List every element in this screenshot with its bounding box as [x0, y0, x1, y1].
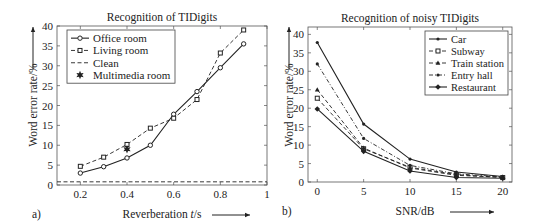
- y-tick-label: 10: [42, 139, 54, 151]
- x-axis-arrow: [450, 210, 494, 214]
- data-point-marker: [316, 62, 319, 65]
- legend-marker-icon: [78, 36, 82, 40]
- data-point-marker: [148, 143, 152, 147]
- y-tick-label: 5: [299, 158, 305, 170]
- legend-label: Living room: [93, 44, 149, 56]
- panel-label: a): [32, 208, 41, 221]
- data-point-marker: [362, 137, 365, 140]
- y-axis-label: Word error rate/%: [283, 63, 295, 147]
- legend-marker-icon: [78, 48, 82, 52]
- data-point-marker: [125, 156, 129, 160]
- legend-label: Clean: [93, 57, 119, 69]
- data-point-marker: [101, 165, 105, 169]
- x-axis-arrow: [212, 213, 250, 217]
- legend-marker-icon: [436, 49, 440, 53]
- y-tick-label: 40: [293, 28, 305, 40]
- y-tick-label: 15: [42, 119, 54, 131]
- y-tick-label: 35: [293, 47, 305, 59]
- chart-panel-b: Recognition of noisy TIDigits05101520051…: [282, 12, 512, 218]
- data-point-marker: [148, 126, 152, 130]
- data-point-marker: [195, 89, 199, 93]
- data-point-marker: [78, 171, 82, 175]
- data-point-marker: [408, 164, 411, 167]
- y-tick-label: 0: [299, 176, 305, 188]
- data-point-marker: [315, 96, 319, 100]
- x-tick-label: 0.2: [73, 188, 87, 200]
- chart-title: Recognition of TIDigits: [107, 11, 218, 24]
- legend-label: Multimedia room: [93, 69, 171, 81]
- panel-label: b): [282, 205, 292, 218]
- series-restaurant: [314, 106, 505, 181]
- y-tick-label: 30: [42, 60, 54, 72]
- data-point-marker: [78, 164, 82, 168]
- legend: Office roomLiving roomCleanMultimedia ro…: [67, 30, 175, 83]
- y-tick-label: 40: [42, 20, 54, 32]
- legend-marker-icon: [436, 73, 439, 76]
- y-axis-label: Word error rate/%: [27, 63, 39, 147]
- chart-panel-a: Recognition of TIDigits0.20.40.60.810510…: [27, 11, 270, 221]
- data-point-marker: [315, 87, 320, 91]
- x-axis-label: SNR/dB: [396, 205, 435, 217]
- legend-label: Subway: [451, 46, 486, 57]
- data-point-marker: [195, 98, 199, 102]
- x-tick-label: 15: [451, 185, 463, 197]
- data-point-marker: [172, 116, 176, 120]
- data-point-marker: [102, 155, 106, 159]
- y-tick-label: 35: [42, 40, 54, 52]
- data-point-marker: [242, 28, 246, 32]
- y-tick-label: 0: [48, 179, 54, 191]
- figure: Recognition of TIDigits0.20.40.60.810510…: [0, 0, 542, 224]
- legend-marker-icon: [436, 37, 439, 40]
- data-point-marker: [362, 122, 365, 125]
- legend-label: Train station: [451, 58, 505, 69]
- legend-label: Office room: [93, 32, 147, 44]
- legend: CarSubwayTrain stationEntry hallRestaura…: [425, 31, 508, 95]
- data-point-marker: [316, 41, 319, 44]
- x-tick-label: 20: [497, 185, 509, 197]
- y-tick-label: 25: [42, 80, 54, 92]
- legend-label: Car: [451, 34, 467, 45]
- x-tick-label: 5: [361, 185, 367, 197]
- chart-title: Recognition of noisy TIDigits: [341, 12, 480, 25]
- x-axis-label: Reverberation t/s: [123, 208, 202, 220]
- data-point-marker: [408, 158, 411, 161]
- y-tick-label: 5: [48, 159, 54, 171]
- legend-label: Restaurant: [451, 82, 496, 93]
- x-tick-label: 0.8: [213, 188, 227, 200]
- data-point-marker: [218, 66, 222, 70]
- legend-label: Entry hall: [451, 70, 493, 81]
- x-tick-label: 0.6: [167, 188, 181, 200]
- x-tick-label: 0.4: [120, 188, 134, 200]
- data-point-marker: [218, 51, 222, 55]
- y-tick-label: 20: [42, 100, 54, 112]
- x-tick-label: 0: [315, 185, 321, 197]
- data-point-marker: [241, 42, 245, 46]
- x-tick-label: 10: [405, 185, 417, 197]
- x-tick-label: 1: [264, 188, 270, 200]
